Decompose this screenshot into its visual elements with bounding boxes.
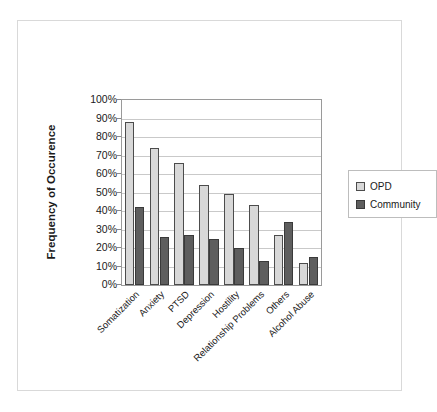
bar-group — [197, 100, 222, 285]
x-axis-category-labels: SomatizationAnxietyPTSDDepressionHostili… — [121, 285, 320, 385]
bar-group — [222, 100, 247, 285]
bar-opd — [224, 194, 234, 285]
legend-swatch-community-icon — [356, 200, 365, 209]
bar-group — [147, 100, 172, 285]
legend-label-community: Community — [370, 199, 421, 210]
plot-area — [121, 99, 322, 286]
bar-opd — [125, 122, 135, 285]
bar-community — [184, 235, 194, 285]
bar-opd — [249, 205, 259, 285]
bar-group — [246, 100, 271, 285]
bar-opd — [174, 163, 184, 285]
bar-community — [160, 237, 170, 285]
legend-swatch-opd-icon — [356, 182, 365, 191]
figure-frame: Frequency of Occurence 100%90%80%70%60%5… — [17, 20, 402, 391]
y-axis-tick-label: 100% — [74, 93, 117, 105]
bar-group — [122, 100, 147, 285]
bar-opd — [199, 185, 209, 285]
bar-opd — [299, 263, 309, 285]
y-axis-tick-label: 50% — [74, 186, 117, 198]
bar-community — [209, 239, 219, 285]
bar-opd — [150, 148, 160, 285]
bar-community — [284, 222, 294, 285]
y-axis-tick-label: 0% — [74, 278, 117, 290]
y-axis-tick-label: 60% — [74, 167, 117, 179]
bar-community — [309, 257, 319, 285]
bar-group — [296, 100, 321, 285]
bar-opd — [274, 235, 284, 285]
bar-community — [259, 261, 269, 285]
y-axis-tick-label: 90% — [74, 112, 117, 124]
y-axis-tick-label: 30% — [74, 223, 117, 235]
y-axis-tick-label: 20% — [74, 241, 117, 253]
y-axis-tick-label: 10% — [74, 260, 117, 272]
legend-item-opd: OPD — [356, 179, 392, 193]
legend: OPD Community — [348, 170, 437, 218]
bar-community — [234, 248, 244, 285]
y-axis-title: Frequency of Occurence — [42, 99, 60, 285]
bar-community — [135, 207, 145, 285]
legend-item-community: Community — [356, 197, 421, 211]
y-axis-tick-label: 80% — [74, 130, 117, 142]
legend-label-opd: OPD — [370, 181, 392, 192]
bar-group — [172, 100, 197, 285]
bars-layer — [122, 100, 321, 285]
y-axis-tick-labels: 100%90%80%70%60%50%40%30%20%10%0% — [74, 99, 117, 284]
y-axis-tick-label: 70% — [74, 149, 117, 161]
y-axis-title-text: Frequency of Occurence — [45, 125, 57, 260]
y-axis-tick-label: 40% — [74, 204, 117, 216]
bar-group — [271, 100, 296, 285]
